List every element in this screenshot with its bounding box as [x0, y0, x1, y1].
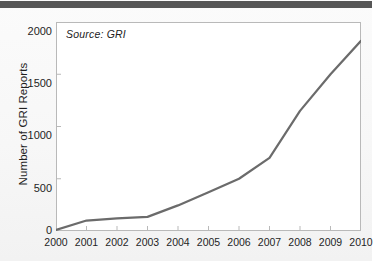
- chart-screenshot: Number of GRI Reports 2000 1500 1000 500…: [0, 0, 383, 261]
- right-white-margin: [372, 0, 383, 261]
- x-axis-tick-labels: 2000 2001 2002 2003 2004 2005 2006 2007 …: [0, 8, 372, 261]
- x-tick-label-2010: 2010: [341, 236, 381, 248]
- source-annotation: Source: GRI: [66, 28, 126, 40]
- top-dark-bar: [0, 1, 372, 8]
- chart-figure: Number of GRI Reports 2000 1500 1000 500…: [0, 8, 372, 261]
